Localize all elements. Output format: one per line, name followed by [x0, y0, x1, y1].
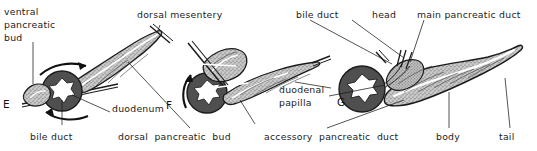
- panel-g-artwork: [310, 20, 522, 128]
- label-tail: tail: [499, 131, 515, 143]
- label-bile-duct-e: bile duct: [30, 131, 73, 143]
- label-accessory-pancreatic-duct: accessory pancreatic duct: [264, 131, 398, 143]
- label-head: head: [372, 9, 396, 21]
- figure-artwork: [0, 0, 537, 151]
- label-body: body: [436, 131, 460, 143]
- label-dorsal-mesentery: dorsal mesentery: [137, 9, 222, 21]
- label-duodenal-papilla-line1: duodenal: [279, 84, 324, 96]
- pancreas-development-figure: ventral pancreatic bud bile duct duodenu…: [0, 0, 537, 151]
- label-dorsal-pancreatic-bud: dorsal pancreatic bud: [118, 131, 231, 143]
- label-duodenal-papilla-line2: papilla: [279, 97, 312, 109]
- panel-letter-g: G: [337, 96, 345, 108]
- panel-letter-e: E: [3, 98, 10, 110]
- panel-letter-f: F: [166, 99, 172, 111]
- panel-e-artwork: [22, 24, 190, 128]
- label-ventral-pancreatic-bud-line2: pancreatic: [4, 19, 55, 31]
- label-ventral-pancreatic-bud-line3: bud: [4, 32, 22, 44]
- label-ventral-pancreatic-bud-line1: ventral: [4, 6, 39, 18]
- label-duodenum: duodenum: [112, 103, 164, 115]
- label-main-pancreatic-duct: main pancreatic duct: [417, 9, 521, 21]
- panel-f-artwork: [183, 41, 331, 124]
- label-bile-duct-g: bile duct: [296, 9, 339, 21]
